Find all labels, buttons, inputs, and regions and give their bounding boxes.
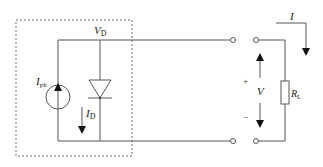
id-label: ID	[85, 107, 96, 121]
resistor-icon	[281, 81, 289, 104]
minus-sign: −	[243, 112, 248, 122]
circuit-diagram: VD Iph ID + V − RL I	[0, 0, 323, 167]
iph-label: Iph	[35, 75, 47, 89]
diode-current-arrow-icon	[78, 107, 86, 134]
plus-sign: +	[243, 76, 248, 86]
terminal-bottom-right	[254, 139, 259, 144]
terminal-top-left	[231, 38, 236, 43]
current-source-icon	[46, 83, 70, 109]
voltage-label: V	[257, 85, 265, 97]
vd-label: VD	[94, 24, 107, 38]
diode-icon	[88, 80, 112, 99]
terminals	[231, 38, 259, 144]
terminal-top-right	[254, 38, 259, 43]
wires	[58, 40, 285, 141]
rl-label: RL	[290, 88, 301, 101]
terminal-bottom-left	[231, 139, 236, 144]
current-label: I	[289, 10, 295, 22]
